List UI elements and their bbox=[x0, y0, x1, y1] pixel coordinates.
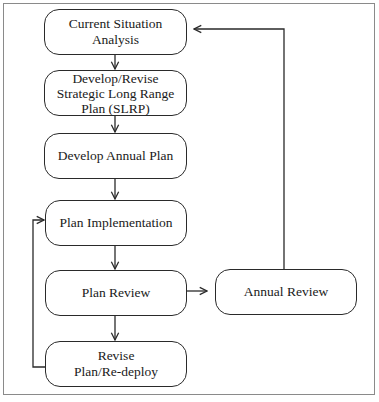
node-label: Revise Plan/Re-deploy bbox=[74, 348, 158, 380]
node-label: Current Situation Analysis bbox=[69, 16, 162, 48]
node-revise-plan-redeploy: Revise Plan/Re-deploy bbox=[45, 341, 187, 387]
node-plan-implementation: Plan Implementation bbox=[45, 200, 187, 246]
node-label: Annual Review bbox=[244, 284, 328, 300]
node-label: Plan Implementation bbox=[60, 215, 173, 231]
node-current-situation-analysis: Current Situation Analysis bbox=[44, 9, 187, 55]
node-annual-review: Annual Review bbox=[215, 269, 357, 315]
node-develop-annual-plan: Develop Annual Plan bbox=[44, 133, 187, 179]
edge-annual-review-to-analysis bbox=[194, 29, 284, 269]
edge-revise-to-implementation bbox=[33, 220, 45, 367]
node-label: Develop/Revise Strategic Long Range Plan… bbox=[57, 71, 175, 116]
node-develop-revise-slrp: Develop/Revise Strategic Long Range Plan… bbox=[44, 70, 187, 116]
node-label: Develop Annual Plan bbox=[58, 148, 173, 164]
node-label: Plan Review bbox=[82, 285, 151, 301]
node-plan-review: Plan Review bbox=[45, 270, 187, 316]
